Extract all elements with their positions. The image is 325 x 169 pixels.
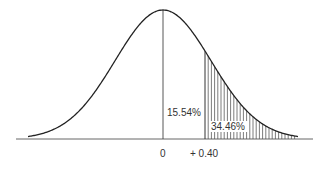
normal-distribution-diagram: 15.54% 34.46% 0 + 0.40	[0, 0, 325, 169]
mean-tick-label: 0	[160, 148, 166, 159]
z-tick-label: + 0.40	[190, 148, 219, 159]
area-between-label: 15.54%	[167, 107, 201, 118]
tail-area-label: 34.46%	[211, 121, 245, 132]
